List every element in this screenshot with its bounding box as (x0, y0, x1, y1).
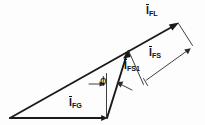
label-i-fl: IFL (146, 4, 158, 16)
phi-angle-marker (89, 81, 132, 90)
label-i-fs1: IFS1 (124, 59, 140, 71)
phasor-diagram-canvas (0, 0, 205, 125)
label-i-fg: IFG (69, 96, 82, 108)
vector-i-fl-shaft (10, 26, 175, 119)
vector-i-fg (10, 115, 108, 121)
phasor-diagram-figure: IFL IFS IFS1 IFG ϕ (0, 0, 205, 125)
vector-i-fl (10, 23, 179, 119)
label-i-fs-subscript: FS (152, 51, 161, 60)
label-i-fs: IFS (149, 46, 161, 58)
label-phi-angle: ϕ (100, 76, 107, 86)
dimension-i-fs-arrowhead-upper (184, 48, 191, 54)
label-i-fl-subscript: FL (149, 9, 158, 18)
label-i-fs1-subscript: FS1 (127, 64, 140, 73)
i-fl-tip-leader-line (179, 24, 193, 46)
label-i-fg-subscript: FG (72, 101, 82, 110)
vector-i-fl-arrowhead (169, 23, 179, 31)
